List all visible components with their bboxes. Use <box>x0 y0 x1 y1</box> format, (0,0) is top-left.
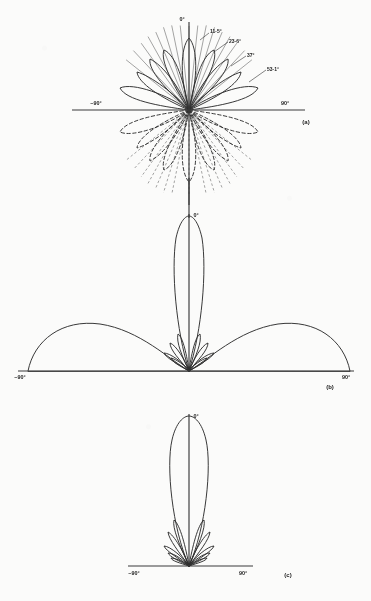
panel-c-axis-label-right: 90° <box>239 570 247 576</box>
panel-b: 0° −90° 90° (b) <box>14 212 354 390</box>
panel-b-caption: (b) <box>326 384 334 390</box>
figure-canvas: 0° 11·5° 23·6° 37° 53·1° −90° 90° (a) <box>0 0 371 601</box>
panel-c-caption: (c) <box>284 572 291 578</box>
panel-c: 0° −90° 90° (c) <box>128 413 292 578</box>
panel-a-axis-label-left: −90° <box>90 100 101 106</box>
panel-a-label-37deg: 37° <box>247 52 255 58</box>
panel-a-caption: (a) <box>302 119 309 125</box>
panel-a-label-53-1deg: 53·1° <box>267 66 279 72</box>
panel-b-axis-label-right: 90° <box>342 374 350 380</box>
panel-c-axis-label-top: 0° <box>193 413 198 419</box>
panel-a-label-23-6deg: 23·6° <box>229 38 241 44</box>
panel-b-endfire-lobe-right <box>189 323 350 371</box>
panel-c-axis-label-left: −90° <box>128 570 139 576</box>
panel-b-axis-label-top: 0° <box>193 212 198 218</box>
panel-a-label-0deg: 0° <box>179 16 184 22</box>
panel-a-label-11-5deg: 11·5° <box>210 28 222 34</box>
antenna-pattern-figure: 0° 11·5° 23·6° 37° 53·1° −90° 90° (a) <box>0 0 371 601</box>
panel-b-endfire-lobe-left <box>28 323 189 371</box>
panel-b-axis-label-left: −90° <box>14 374 25 380</box>
panel-a: 0° 11·5° 23·6° 37° 53·1° −90° 90° (a) <box>72 16 310 218</box>
panel-a-axis-label-right: 90° <box>281 100 289 106</box>
